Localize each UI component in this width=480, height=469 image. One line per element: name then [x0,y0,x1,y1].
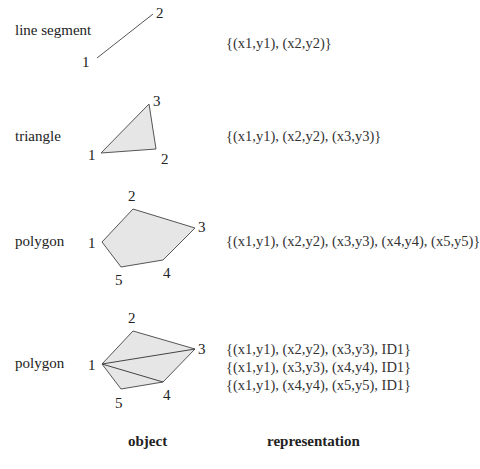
triangulated-polygon-shape: 1 2 3 4 5 [88,310,206,411]
vertex-label: 3 [198,341,206,357]
vertex-label: 4 [163,387,171,403]
representation-triangle: {(x1,y1), (x2,y2), (x3,y3)} [226,127,381,146]
representation-line-segment: {(x1,y1), (x2,y2)} [226,34,332,53]
representation-triangle-3: {(x1,y1), (x4,y4), (x5,y5), ID1} [226,376,411,395]
column-header-object: object [128,433,167,450]
vertex-label: 5 [115,272,123,288]
vertex-label: 3 [153,93,161,109]
vertex-label: 2 [156,5,164,21]
vertex-label: 1 [88,357,96,373]
representation-triangle-1: {(x1,y1), (x2,y2), (x3,y3), ID1} [226,340,411,359]
vertex-label: 1 [82,54,90,70]
vertex-label: 5 [115,395,123,411]
vertex-label: 1 [88,147,96,163]
line-segment-shape: 1 2 [82,5,164,70]
vertex-label: 4 [163,265,171,281]
column-header-representation: representation [267,433,360,450]
representation-polygon: {(x1,y1), (x2,y2), (x3,y3), (x4,y4), (x5… [226,232,480,251]
vertex-label: 2 [161,151,169,167]
representation-triangle-2: {(x1,y1), (x3,y3), (x4,y4), ID1} [226,358,411,377]
vertex-label: 1 [88,235,96,251]
polygon-shape: 1 2 3 4 5 [88,188,206,288]
vertex-label: 3 [198,219,206,235]
vertex-label: 2 [128,188,136,204]
vertex-label: 2 [128,310,136,326]
triangle-shape: 1 2 3 [88,93,169,167]
